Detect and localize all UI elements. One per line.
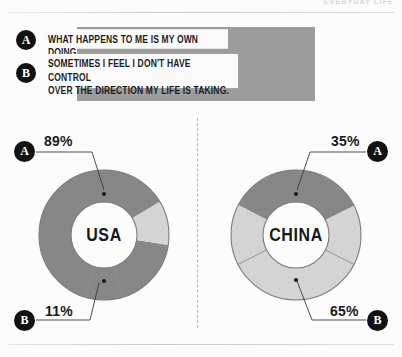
pct-label-china-a: 35% [331, 132, 360, 150]
donut-usa-svg [37, 168, 171, 302]
infographic-page: EVERYDAY LIFE A WHAT HAPPENS TO ME IS MY… [0, 0, 402, 357]
legend-badge-b: B [16, 63, 36, 83]
legend-text-b-line2: OVER THE DIRECTION MY LIFE IS TAKING. [48, 84, 232, 97]
legend-text-b: SOMETIMES I FEEL I DON'T HAVE CONTROL OV… [42, 54, 238, 88]
top-divider-rule [8, 12, 394, 13]
callout-badge-usa-a: A [14, 141, 35, 162]
donut-chart-china: CHINA [229, 168, 363, 302]
callout-badge-usa-b: B [14, 310, 35, 331]
pct-label-usa-b: 11% [45, 301, 73, 319]
chart-divider [197, 118, 198, 328]
callout-badge-china-b: B [367, 310, 388, 331]
legend-text-b-line1: SOMETIMES I FEEL I DON'T HAVE CONTROL [48, 57, 232, 84]
callout-badge-china-a: A [367, 141, 388, 162]
legend-text-a: WHAT HAPPENS TO ME IS MY OWN DOING. [42, 29, 228, 49]
bottom-divider-rule [8, 344, 394, 345]
pct-label-usa-a: 89% [44, 132, 73, 150]
pct-label-china-b: 65% [330, 301, 359, 319]
legend-badge-a: A [16, 30, 36, 50]
cut-off-header-text: EVERYDAY LIFE [324, 0, 394, 5]
donut-china-svg [229, 168, 363, 302]
donut-chart-usa: USA [37, 168, 171, 302]
